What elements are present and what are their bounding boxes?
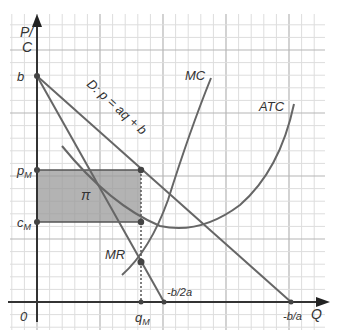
point-q-m	[139, 300, 144, 305]
point-b	[34, 73, 40, 79]
point-p-m-axis	[34, 167, 40, 173]
neg-b-a-label: -b/a	[283, 310, 302, 322]
point-demand-at-q-m	[138, 167, 144, 173]
origin-label: 0	[20, 309, 28, 324]
point-neg-b-2a	[162, 300, 167, 305]
demand-label: D: p = aq + b	[84, 76, 150, 137]
mr-label: MR	[105, 247, 125, 262]
q-m-label: qM	[135, 310, 150, 327]
y-axis-label-line2: C	[22, 39, 33, 55]
y-axis-label-line1: P/	[20, 24, 35, 40]
p-m-label: pM	[16, 163, 32, 180]
neg-b-2a-label: -b/2a	[167, 286, 192, 298]
mc-label: MC	[185, 68, 206, 83]
atc-label: ATC	[258, 99, 285, 114]
y-axis-arrow-icon	[32, 14, 42, 27]
point-neg-b-a	[289, 300, 294, 305]
monopoly-diagram: P/ C b pM cM 0 qM -b/2a -b/a Q π D: p = …	[0, 0, 340, 336]
x-axis-label: Q	[311, 306, 322, 322]
point-c-m-axis	[34, 219, 40, 225]
b-label: b	[17, 69, 24, 84]
point-atc-at-q-m	[138, 219, 144, 225]
profit-label: π	[81, 187, 91, 203]
point-mr-mc-intersection	[138, 259, 145, 266]
